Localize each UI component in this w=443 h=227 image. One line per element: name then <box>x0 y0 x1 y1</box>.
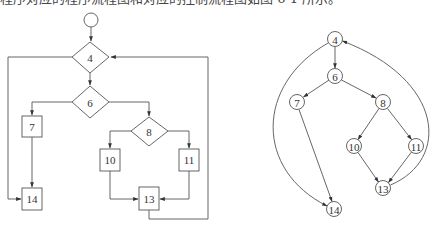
flow-edge-8-to-11 <box>168 131 189 148</box>
cfg-edge-7-to-14 <box>299 110 332 202</box>
svg-text:14: 14 <box>329 204 341 216</box>
flow-edge-11-to-13 <box>160 171 189 199</box>
flowchart-node-4: 4 <box>72 42 109 73</box>
flowchart-node-10: 10 <box>100 149 120 171</box>
control-flow-graph: 4 6 7 8 10 11 13 14 <box>273 32 429 217</box>
svg-text:11: 11 <box>184 154 195 166</box>
cfg-node-6: 6 <box>328 69 343 84</box>
svg-text:10: 10 <box>349 141 361 153</box>
svg-text:7: 7 <box>294 97 300 109</box>
diagram-canvas: 4 6 7 8 10 <box>0 0 443 227</box>
svg-text:4: 4 <box>332 34 338 46</box>
svg-text:4: 4 <box>87 52 93 64</box>
flow-edge-8-to-10 <box>110 131 131 148</box>
flowchart-node-11: 11 <box>179 149 199 171</box>
flowchart-node-7: 7 <box>22 116 42 137</box>
cfg-edge-10-to-13 <box>358 153 379 183</box>
cfg-node-7: 7 <box>290 95 305 110</box>
svg-text:8: 8 <box>380 97 386 109</box>
cfg-edge-13-to-4 <box>343 41 429 185</box>
flow-edge-10-to-13 <box>110 171 138 199</box>
cfg-node-13: 13 <box>376 181 391 196</box>
cfg-edge-8-to-11 <box>388 109 412 140</box>
svg-text:8: 8 <box>146 126 152 138</box>
cfg-node-8: 8 <box>376 95 391 110</box>
cfg-edge-6-to-8 <box>342 80 377 98</box>
cfg-node-14: 14 <box>327 202 342 217</box>
svg-text:6: 6 <box>87 97 93 109</box>
svg-text:11: 11 <box>411 141 422 153</box>
flow-edge-6-to-8 <box>109 102 149 116</box>
cfg-node-10: 10 <box>347 139 362 154</box>
svg-text:13: 13 <box>378 183 390 195</box>
cfg-node-11: 11 <box>409 139 424 154</box>
svg-text:14: 14 <box>27 193 39 205</box>
start-node <box>84 13 98 27</box>
cfg-edge-4-to-14 <box>273 43 328 206</box>
cfg-edge-11-to-13 <box>389 152 412 183</box>
flowchart-node-14: 14 <box>22 188 42 210</box>
svg-text:13: 13 <box>144 193 156 205</box>
cfg-node-4: 4 <box>328 32 343 47</box>
flowchart-node-8: 8 <box>131 117 168 146</box>
svg-text:7: 7 <box>29 121 35 133</box>
flowchart-node-13: 13 <box>139 187 159 210</box>
svg-text:6: 6 <box>332 71 338 83</box>
flowchart-node-6: 6 <box>72 86 109 118</box>
cfg-edge-6-to-7 <box>304 80 330 97</box>
svg-text:10: 10 <box>105 154 117 166</box>
program-flowchart: 4 6 7 8 10 <box>8 13 208 219</box>
cfg-edge-8-to-10 <box>358 109 379 140</box>
flow-edge-6-to-7 <box>32 102 72 115</box>
